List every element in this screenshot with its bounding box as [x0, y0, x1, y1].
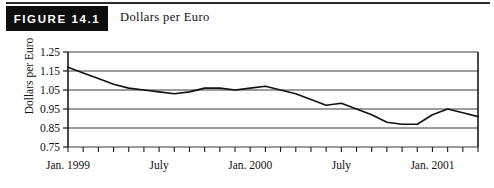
x-tick-label: Jan. 2001 [410, 159, 454, 171]
y-tick-label: 1.05 [40, 84, 60, 96]
x-tick-label: Jan. 2000 [228, 159, 272, 171]
y-tick-label: 0.75 [40, 141, 60, 153]
x-tick-label: Jan. 1999 [46, 159, 90, 171]
y-tick-label: 1.25 [40, 46, 60, 58]
figure-title: Dollars per Euro [120, 10, 210, 25]
y-axis-title: Dollars per Euro [23, 21, 35, 131]
line-chart: 1.251.151.050.950.850.75Jan. 1999JulyJan… [0, 34, 494, 188]
x-tick-label: July [150, 159, 169, 172]
y-tick-label: 0.95 [40, 103, 60, 115]
figure-container: FIGURE 14.1 Dollars per Euro Dollars per… [0, 0, 494, 188]
data-series-line [68, 67, 478, 124]
x-tick-label: July [332, 159, 351, 172]
header-rule [6, 2, 490, 4]
y-tick-label: 0.85 [40, 122, 60, 134]
figure-number-badge: FIGURE 14.1 [6, 6, 108, 31]
chart-area: Dollars per Euro 1.251.151.050.950.850.7… [0, 34, 494, 188]
y-tick-label: 1.15 [40, 65, 60, 77]
